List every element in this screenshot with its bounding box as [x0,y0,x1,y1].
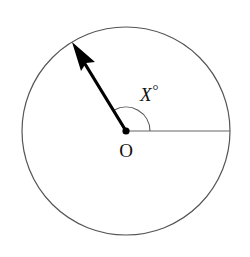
angle-label: X° [139,82,159,105]
arrow-shaft [82,59,126,131]
angle-variable: X [139,84,153,105]
center-point [122,127,129,134]
arrowhead-icon [72,42,95,71]
degree-symbol: ° [153,82,159,98]
circle-angle-diagram: O X° [0,0,250,257]
center-label: O [119,140,133,161]
